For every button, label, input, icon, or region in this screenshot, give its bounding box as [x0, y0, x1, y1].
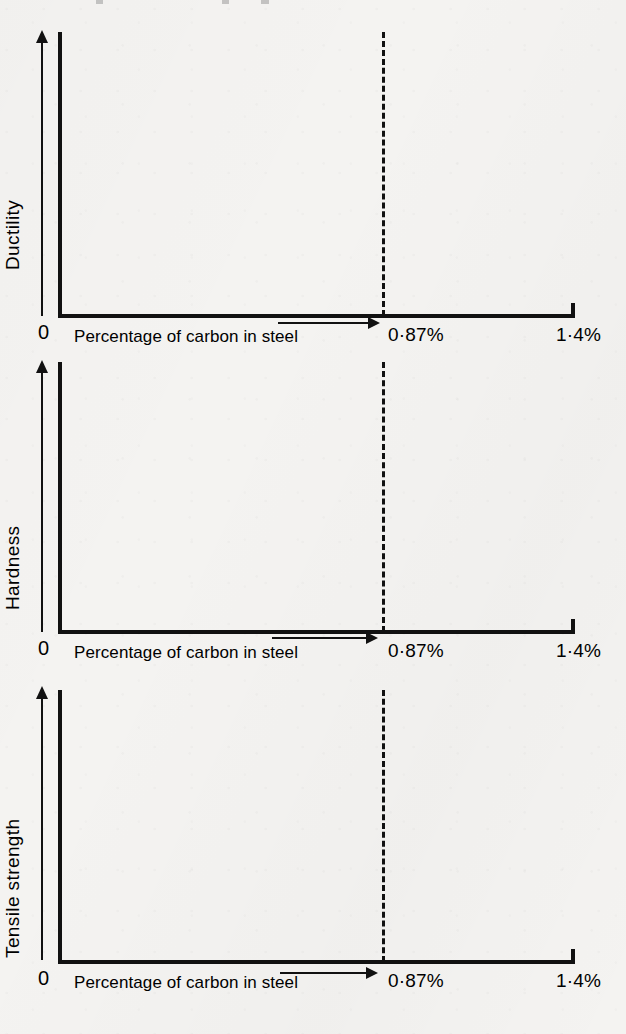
up-arrow-shaft: [41, 698, 43, 960]
up-arrow-shaft: [41, 42, 43, 316]
x-axis-line: [58, 960, 575, 964]
x-axis-end-tick: [571, 619, 575, 631]
figure-canvas: Ductility 0 Percentage of carbon in stee…: [0, 0, 626, 1034]
right-arrow-shaft: [272, 637, 368, 639]
up-arrow-shaft: [41, 372, 43, 632]
x-axis-line: [58, 314, 575, 318]
y-axis-title-text: Hardness: [4, 525, 22, 610]
threshold-dashed-line: [382, 690, 385, 962]
x-axis-threshold-label: 0·87%: [388, 325, 444, 344]
x-axis-caption: Percentage of carbon in steel: [74, 328, 298, 345]
y-axis-line: [58, 32, 62, 318]
x-axis-end-tick: [571, 303, 575, 315]
chart-panel-ductility: Ductility 0 Percentage of carbon in stee…: [0, 0, 626, 352]
right-arrow-icon: [366, 967, 378, 979]
right-arrow-icon: [366, 632, 378, 644]
y-axis-title-text: Ductility: [4, 200, 22, 270]
x-axis-max-label: 1·4%: [556, 971, 601, 990]
chart-panel-tensile-strength: Tensile strength 0 Percentage of carbon …: [0, 670, 626, 1034]
y-axis-title-text: Tensile strength: [4, 819, 22, 958]
x-axis-threshold-label: 0·87%: [388, 641, 444, 660]
x-axis-caption: Percentage of carbon in steel: [74, 644, 298, 661]
x-axis-max-label: 1·4%: [556, 325, 601, 344]
x-axis-max-label: 1·4%: [556, 641, 601, 660]
x-axis-origin-label: 0: [38, 322, 49, 342]
x-axis-caption: Percentage of carbon in steel: [74, 974, 298, 991]
right-arrow-icon: [368, 317, 380, 329]
chart-panel-hardness: Hardness 0 Percentage of carbon in steel…: [0, 352, 626, 670]
x-axis-origin-label: 0: [38, 968, 49, 988]
right-arrow-shaft: [278, 322, 370, 324]
x-axis-threshold-label: 0·87%: [388, 971, 444, 990]
x-axis-origin-label: 0: [38, 638, 49, 658]
threshold-dashed-line: [382, 362, 385, 632]
x-axis-line: [58, 630, 575, 634]
y-axis-line: [58, 362, 62, 634]
y-axis-line: [58, 690, 62, 964]
x-axis-end-tick: [571, 949, 575, 961]
threshold-dashed-line: [382, 32, 385, 316]
